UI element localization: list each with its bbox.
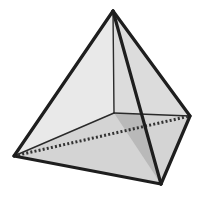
- pyramid-faces: [14, 11, 190, 184]
- square-pyramid-diagram: [0, 0, 203, 197]
- edge-apex-back: [113, 11, 114, 113]
